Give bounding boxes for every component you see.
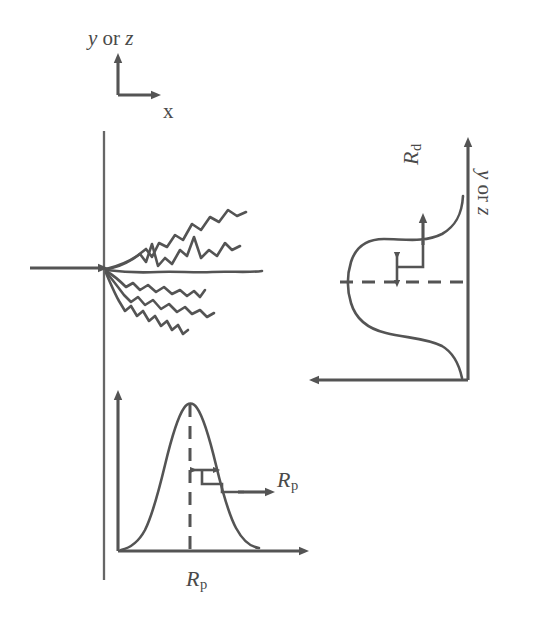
projected-straggle-label: Rp <box>277 467 298 494</box>
axis-label-x: x <box>163 99 174 124</box>
coordinate-axes-group <box>118 62 152 95</box>
depth-straggle-leader <box>202 470 244 492</box>
lateral-straggle-label: Rd <box>398 144 425 165</box>
lateral-distribution-panel <box>318 146 468 380</box>
diagram-canvas <box>0 0 537 623</box>
lateral-straggle-leader <box>397 241 423 267</box>
ion-trajectories-group <box>106 210 262 334</box>
lateral-gaussian-curve <box>348 196 463 378</box>
trajectory-2 <box>106 237 240 269</box>
trajectory-1 <box>106 210 246 269</box>
depth-distribution-panel <box>118 399 300 551</box>
axis-label-y-or-z-top: y or z <box>88 26 134 51</box>
trajectory-4 <box>106 271 205 297</box>
trajectory-3 <box>106 270 262 272</box>
projected-range-axis-label: Rp <box>186 566 207 593</box>
axis-label-y-or-z-right: y or z <box>472 170 497 216</box>
ion-implantation-figure: y or z x Rd y or z Rp Rp <box>0 0 537 623</box>
